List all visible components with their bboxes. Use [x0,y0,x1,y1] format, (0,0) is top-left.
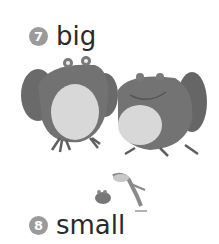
big-frog-right-icon [118,72,207,156]
big-frog-left-icon [21,56,118,152]
vocab-word: big [56,23,96,49]
vocab-word: small [56,212,125,238]
vocab-item-big: 7 big [29,23,96,49]
number-badge: 8 [29,216,48,235]
small-frog-leaping-icon [113,174,145,206]
number-badge: 7 [29,27,48,46]
small-frogs-illustration [85,168,155,213]
small-frog-sitting-icon [95,190,111,204]
big-frogs-illustration [0,50,219,160]
vocab-item-small: 8 small [29,212,125,238]
